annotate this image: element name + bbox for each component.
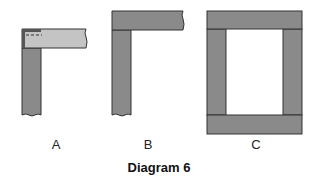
- figure-a-label: A: [52, 137, 61, 152]
- diagram-canvas: [0, 0, 320, 186]
- figure-a: [22, 29, 87, 116]
- figure-a-vertical-member: [22, 48, 41, 116]
- diagram-caption: Diagram 6: [128, 160, 191, 175]
- figure-b: [112, 11, 184, 116]
- figure-c-left-stile: [207, 29, 226, 115]
- figure-c-bottom-rail: [207, 115, 302, 134]
- figure-c: [207, 11, 302, 134]
- figure-b-label: B: [144, 137, 153, 152]
- figure-c-right-stile: [283, 29, 302, 115]
- figure-b-horizontal-member: [112, 11, 184, 30]
- figure-c-label: C: [251, 137, 260, 152]
- figure-b-vertical-member: [112, 30, 131, 116]
- figure-c-top-rail: [207, 11, 302, 29]
